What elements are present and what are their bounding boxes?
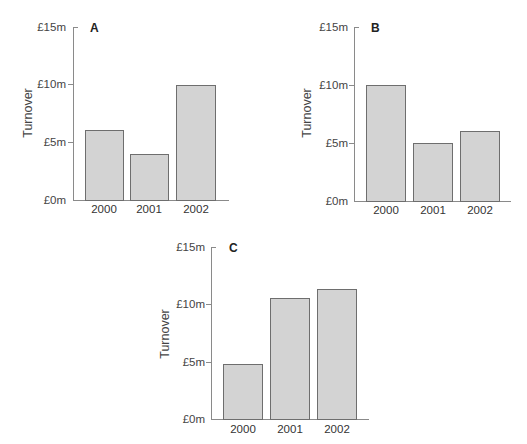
panel-label: C: [229, 241, 238, 255]
y-tick-label: £0m: [161, 413, 205, 425]
x-tick-label: 2002: [315, 423, 359, 435]
y-tick-label: £10m: [161, 298, 205, 310]
x-tick-label: 2001: [268, 423, 312, 435]
y-axis: [211, 247, 212, 420]
y-tick: [206, 362, 211, 363]
y-tick-label: £5m: [161, 356, 205, 368]
y-tick: [206, 304, 211, 305]
bar-2001: [270, 298, 310, 420]
y-tick: [211, 247, 216, 248]
bar-2002: [317, 289, 357, 420]
chart-c: Turnover C £15m £10m £5m £0m 2000 2001 2…: [0, 0, 527, 444]
bar-2000: [223, 364, 263, 420]
x-tick-label: 2000: [221, 423, 265, 435]
y-tick-label: £15m: [161, 241, 205, 253]
